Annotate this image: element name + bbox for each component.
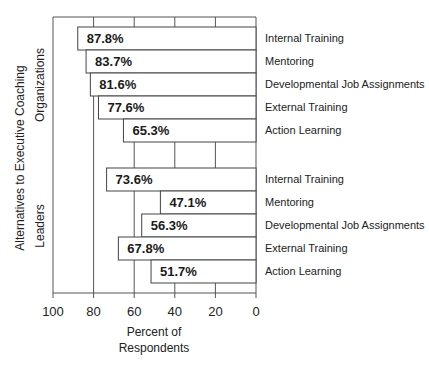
bar-value-label: 73.6%: [116, 172, 153, 187]
category-label: Mentoring: [265, 196, 314, 208]
group-label-organizations: Organizations: [33, 48, 47, 122]
bar-value-label: 65.3%: [132, 123, 169, 138]
bar-value-label: 67.8%: [127, 241, 164, 256]
category-label: External Training: [265, 242, 348, 254]
category-label: Developmental Job Assignments: [265, 78, 425, 90]
category-label: Internal Training: [265, 32, 344, 44]
category-label: Developmental Job Assignments: [265, 219, 425, 231]
x-axis-title-line1: Percent of: [127, 325, 182, 339]
x-tick-label: 0: [252, 304, 259, 319]
bar-value-label: 51.7%: [160, 264, 197, 279]
group-label-leaders: Leaders: [33, 204, 47, 247]
bar-value-label: 47.1%: [169, 195, 206, 210]
bar-value-label: 56.3%: [151, 218, 188, 233]
bar-chart: 87.8%Internal Training83.7%Mentoring81.6…: [0, 0, 429, 365]
category-label: Mentoring: [265, 55, 314, 67]
x-tick-label: 40: [168, 304, 182, 319]
y-axis-title: Alternatives to Executive Coaching: [13, 65, 27, 250]
bar-value-label: 83.7%: [95, 54, 132, 69]
x-axis: 100806040200: [42, 293, 259, 319]
bar-value-label: 77.6%: [107, 100, 144, 115]
x-tick-label: 100: [42, 304, 64, 319]
bars: 87.8%Internal Training83.7%Mentoring81.6…: [78, 27, 425, 283]
category-label: External Training: [265, 101, 348, 113]
x-tick-label: 80: [86, 304, 100, 319]
bar-value-label: 81.6%: [99, 77, 136, 92]
x-axis-title-line2: Respondents: [119, 341, 190, 355]
bar-value-label: 87.8%: [87, 31, 124, 46]
x-tick-label: 60: [127, 304, 141, 319]
category-label: Internal Training: [265, 173, 344, 185]
category-label: Action Learning: [265, 265, 341, 277]
x-tick-label: 20: [208, 304, 222, 319]
category-label: Action Learning: [265, 124, 341, 136]
